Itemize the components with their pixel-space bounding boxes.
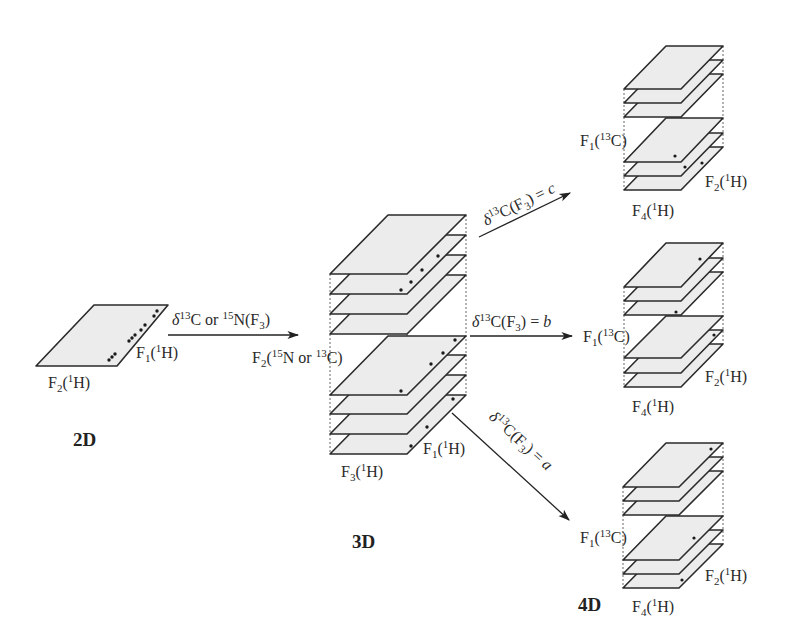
3d-axis-f1-label: F1(1H) — [423, 438, 465, 460]
4d-a-axis-f1-label: F1(13C) — [580, 527, 627, 549]
4d-c-axis-f4-label: F4(1H) — [632, 200, 674, 222]
3d-upper-plane-group — [330, 215, 466, 334]
panel-3d: F2(15N or 13C) F1(1H) F3(1H) 3D — [252, 215, 466, 552]
4d-stack-c: F1(13C) F2(1H) F4(1H) — [580, 46, 747, 222]
4d-b-axis-f2-label: F2(1H) — [705, 366, 747, 388]
4d-a-axis-f2-label: F2(1H) — [705, 565, 747, 587]
4d-title: 4D — [578, 594, 601, 615]
3d-title: 3D — [352, 531, 375, 552]
nmr-dimension-diagram: F1(1H) F2(1H) 2D δ13C or 15N(F3) — [0, 0, 786, 637]
3d-lower-plane-group — [330, 336, 466, 454]
4d-stack-b: F1(13C) F2(1H) F4(1H) — [583, 243, 747, 418]
arrow-to-a: δ13C(F3) = a — [452, 406, 569, 520]
4d-b-axis-f4-label: F4(1H) — [632, 396, 674, 418]
2d-title: 2D — [73, 429, 96, 450]
4d-a-axis-f4-label: F4(1H) — [632, 596, 674, 618]
4d-b-axis-f1-label: F1(13C) — [583, 326, 630, 348]
3d-axis-f3-label: F3(1H) — [341, 461, 383, 483]
2d-axis-f1-label: F1(1H) — [136, 342, 178, 364]
arrow-b-label: δ13C(F3) = b — [472, 311, 551, 333]
4d-c-axis-f2-label: F2(1H) — [705, 171, 747, 193]
arrow-a-label: δ13C(F3) = a — [484, 406, 558, 475]
panel-2d: F1(1H) F2(1H) 2D — [36, 305, 178, 450]
arrow-to-b: δ13C(F3) = b — [470, 311, 572, 336]
4d-stack-a: F1(13C) F2(1H) F4(1H) 4D — [578, 443, 747, 618]
arrow-2d-to-3d-label: δ13C or 15N(F3) — [172, 309, 270, 331]
arrow-to-c: δ13C(F3) = c — [479, 177, 570, 237]
2d-axis-f2-label: F2(1H) — [48, 372, 90, 394]
arrow-2d-to-3d: δ13C or 15N(F3) — [168, 309, 298, 335]
4d-c-axis-f1-label: F1(13C) — [580, 130, 627, 152]
3d-axis-f2-label: F2(15N or 13C) — [252, 347, 343, 369]
